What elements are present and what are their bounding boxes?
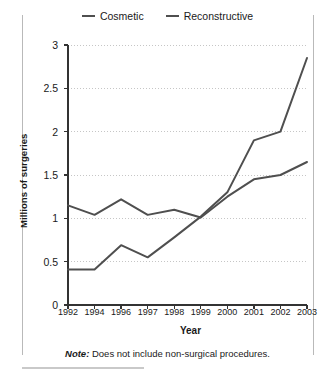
x-tick-label: 1997 — [138, 308, 158, 317]
figure-container: CosmeticReconstructive 00.511.522.53 199… — [0, 0, 333, 379]
x-tick-label: 2001 — [244, 308, 264, 317]
x-tick-label: 2002 — [270, 308, 290, 317]
figure-note: Note: Does not include non-surgical proc… — [22, 348, 313, 359]
figure-note-prefix: Note: — [65, 348, 89, 359]
x-tick-label: 2003 — [297, 308, 317, 317]
y-tick-label: 2.5 — [32, 83, 58, 94]
x-tick-label: 2000 — [217, 308, 237, 317]
y-tick-label: 1.5 — [32, 170, 58, 181]
y-axis-title: Millions of surgeries — [19, 126, 29, 236]
figure-note-text: Does not include non-surgical procedures… — [89, 348, 270, 359]
x-tick-label: 1992 — [58, 308, 78, 317]
y-tick-label: 1 — [32, 213, 58, 224]
y-tick-label: 0 — [32, 300, 58, 311]
y-tick-label: 0.5 — [32, 256, 58, 267]
x-axis-title: Year — [68, 326, 313, 336]
chart-plot-svg — [0, 0, 333, 379]
x-tick-label: 1996 — [111, 308, 131, 317]
x-tick-label: 1998 — [164, 308, 184, 317]
y-tick-label: 2 — [32, 126, 58, 137]
x-tick-label: 1994 — [85, 308, 105, 317]
plot-area: 00.511.522.53 19921994199619971998199920… — [0, 0, 333, 379]
x-tick-label: 1999 — [191, 308, 211, 317]
y-tick-label: 3 — [32, 40, 58, 51]
